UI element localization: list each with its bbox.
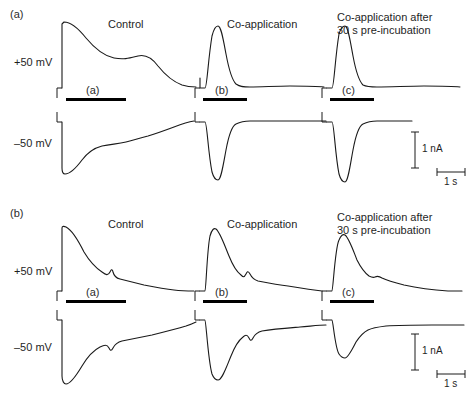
voltage-label-minus50-panel-b: –50 mV <box>14 341 52 353</box>
trace-origin-tick-panel-b-control-plus50 <box>57 291 62 301</box>
voltage-label-plus50-panel-b: +50 mV <box>14 265 52 277</box>
voltage-label-minus50-panel-a: –50 mV <box>14 137 52 149</box>
trace-canvas <box>0 0 473 396</box>
scalebar-time-label-panel-b: 1 s <box>444 378 457 389</box>
trace-origin-tick-panel-a-control-plus50 <box>57 88 62 98</box>
scalebar-current-panel-b <box>411 334 419 370</box>
column-title-coapplication-panel-a: Co-application <box>227 18 297 31</box>
trace-panel-a-coapp-plus50 <box>200 26 324 88</box>
column-title-line2: 30 s pre-incubation <box>337 24 432 37</box>
application-bar-b-panel-b <box>203 300 247 303</box>
application-bar-a-panel-a <box>66 98 126 101</box>
column-title-line1: Co-application after <box>337 211 432 224</box>
trace-origin-tick-panel-b-coapp-plus50 <box>195 291 200 301</box>
trace-panel-b-preinc-minus50 <box>327 320 464 358</box>
scalebar-current-panel-a <box>411 132 419 168</box>
column-title-coapplication-panel-b: Co-application <box>227 218 297 231</box>
column-title-preincubation-panel-b: Co-application after 30 s pre-incubation <box>337 211 432 237</box>
voltage-label-plus50-panel-a: +50 mV <box>14 56 52 68</box>
application-bar-c-panel-b <box>330 300 374 303</box>
scalebar-time-label-panel-a: 1 s <box>444 176 457 187</box>
trace-panel-b-coapp-minus50 <box>200 320 326 380</box>
trace-origin-tick-panel-a-control-minus50 <box>57 112 62 122</box>
trace-panel-b-control-plus50 <box>62 226 194 291</box>
trace-panel-a-control-plus50 <box>62 22 196 88</box>
application-bar-label-a-panel-a: (a) <box>86 84 99 96</box>
trace-origin-tick-panel-b-preinc-plus50 <box>322 291 327 301</box>
scalebar-time-panel-b <box>437 370 465 378</box>
scalebar-time-panel-a <box>437 168 465 176</box>
column-title-line2: 30 s pre-incubation <box>337 224 432 237</box>
trace-panel-a-control-minus50 <box>62 121 194 174</box>
application-bar-a-panel-b <box>66 300 126 303</box>
trace-panel-b-control-minus50 <box>62 320 196 384</box>
trace-origin-tick-panel-b-coapp-minus50 <box>195 310 200 320</box>
trace-origin-tick-panel-a-preinc-minus50 <box>322 112 327 122</box>
application-bar-b-panel-a <box>203 98 247 101</box>
scalebar-current-label-panel-a: 1 nA <box>422 143 443 154</box>
column-title-control-panel-b: Control <box>108 218 143 231</box>
column-title-control-panel-a: Control <box>108 18 143 31</box>
application-bar-label-c-panel-b: (c) <box>342 286 355 298</box>
scalebar-group <box>411 132 465 378</box>
trace-panel-a-coapp-minus50 <box>200 121 326 180</box>
application-bar-label-c-panel-a: (c) <box>342 84 355 96</box>
trace-panel-b-preinc-plus50 <box>327 235 462 291</box>
column-title-preincubation-panel-a: Co-application after 30 s pre-incubation <box>337 11 432 37</box>
panel-label-a: (a) <box>10 8 23 20</box>
trace-origin-tick-panel-a-preinc-plus50 <box>322 88 327 98</box>
application-bar-label-b-panel-b: (b) <box>215 286 228 298</box>
application-bar-label-a-panel-b: (a) <box>86 286 99 298</box>
trace-group <box>57 22 464 384</box>
trace-origin-tick-panel-b-control-minus50 <box>57 310 62 320</box>
trace-origin-tick-panel-a-coapp-plus50 <box>195 88 200 98</box>
trace-panel-b-coapp-plus50 <box>200 229 322 291</box>
application-bar-c-panel-a <box>330 98 374 101</box>
trace-origin-tick-panel-a-coapp-minus50 <box>195 112 200 122</box>
scalebar-current-label-panel-b: 1 nA <box>422 345 443 356</box>
application-bar-label-b-panel-a: (b) <box>215 84 228 96</box>
trace-origin-tick-panel-b-preinc-minus50 <box>322 310 327 320</box>
column-title-line1: Co-application after <box>337 11 432 24</box>
figure-root: (a) +50 mV –50 mV Control Co-application… <box>0 0 473 396</box>
panel-label-b: (b) <box>10 207 23 219</box>
trace-panel-a-preinc-minus50 <box>327 121 412 182</box>
